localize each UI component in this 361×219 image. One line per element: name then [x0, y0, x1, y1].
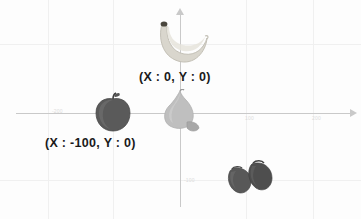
x-tick-label-200: 200 — [312, 115, 321, 121]
apple-icon — [93, 92, 134, 134]
strawberry-icon — [245, 160, 275, 193]
fruit-banana[interactable] — [152, 16, 210, 66]
x-tick-label-100: 100 — [245, 115, 254, 121]
gridline-vertical — [313, 0, 314, 219]
x-axis-arrow-icon — [350, 109, 357, 117]
y-axis-arrow-icon — [176, 8, 184, 15]
fruit-apple-dark[interactable] — [93, 92, 134, 134]
fruit-strawberry-right[interactable] — [245, 160, 275, 193]
neg100-coordinate-label: (X : -100, Y : 0) — [45, 136, 136, 150]
y-tick-label-neg100: -100 — [184, 177, 195, 183]
gridline-vertical — [48, 0, 49, 219]
banana-icon — [152, 16, 210, 66]
pear-icon — [159, 89, 207, 135]
x-tick-label-neg200: -200 — [52, 108, 63, 114]
coordinate-scene-viewport: -200 100 200 -100 — [0, 0, 361, 219]
fruit-pear-origin[interactable] — [159, 89, 207, 135]
origin-coordinate-label: (X : 0, Y : 0) — [139, 70, 211, 84]
